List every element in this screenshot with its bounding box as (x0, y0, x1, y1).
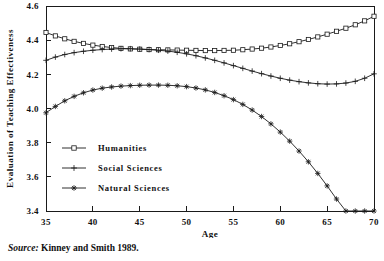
marker-plus (221, 60, 227, 66)
axis-frame-top-right (46, 6, 374, 211)
marker-plus (287, 77, 293, 83)
marker-plus (334, 81, 340, 87)
marker-star (334, 196, 339, 201)
marker-star (240, 102, 245, 107)
marker-plus (212, 58, 218, 64)
x-tick-label: 40 (88, 217, 98, 227)
source-label: Source: (8, 243, 39, 253)
x-tick-label: 60 (275, 217, 285, 227)
marker-star (343, 208, 348, 213)
marker-plus (296, 79, 302, 85)
axis-frame-left-bottom (46, 6, 374, 211)
marker-square (372, 14, 376, 18)
marker-square (222, 48, 226, 52)
marker-star (165, 83, 170, 88)
legend-label: Social Sciences (98, 163, 163, 173)
x-tick-label: 50 (182, 217, 192, 227)
x-tick-label: 70 (369, 217, 379, 227)
marker-square (241, 48, 245, 52)
marker-square (72, 39, 76, 43)
marker-plus (90, 47, 96, 53)
series-line (46, 85, 374, 211)
source-note: Source: Kinney and Smith 1989. (8, 243, 139, 253)
y-axis-title: Evaluation of Teaching Effectiveness (5, 29, 15, 188)
marker-plus (277, 75, 283, 81)
marker-star (118, 83, 123, 88)
marker-plus (371, 71, 377, 77)
marker-plus (81, 48, 87, 54)
marker-square (91, 43, 95, 47)
marker-plus (343, 80, 349, 86)
marker-star (353, 208, 358, 213)
marker-star (109, 84, 114, 89)
marker-star (100, 85, 105, 90)
marker-square (213, 48, 217, 52)
marker-star (184, 84, 189, 89)
marker-star (62, 98, 67, 103)
series-natural-sciences (43, 82, 376, 213)
marker-star (324, 183, 329, 188)
marker-star (306, 159, 311, 164)
marker-plus (362, 75, 368, 81)
marker-square (316, 35, 320, 39)
legend-item-natural-sciences: Natural Sciences (62, 183, 170, 193)
marker-square (269, 45, 273, 49)
y-tick-label: 4.4 (27, 35, 40, 45)
legend-item-social-sciences: Social Sciences (62, 163, 163, 173)
figure-container: 3.43.63.84.04.24.44.63540455055606570 Hu… (0, 0, 384, 261)
marker-star (287, 138, 292, 143)
marker-plus (306, 80, 312, 86)
marker-star (278, 129, 283, 134)
marker-star (71, 185, 77, 191)
marker-star (371, 208, 376, 213)
marker-star (90, 87, 95, 92)
marker-star (203, 87, 208, 92)
marker-star (128, 83, 133, 88)
marker-square (231, 48, 235, 52)
y-tick-label: 3.4 (27, 206, 40, 216)
line-chart: 3.43.63.84.04.24.44.63540455055606570 Hu… (0, 0, 384, 238)
marker-star (221, 93, 226, 98)
marker-star (259, 114, 264, 119)
marker-square (194, 48, 198, 52)
marker-star (296, 148, 301, 153)
y-tick-label: 4.6 (27, 1, 40, 11)
y-tick-label: 3.8 (27, 138, 40, 148)
marker-plus (249, 68, 255, 74)
marker-plus (53, 54, 59, 60)
marker-square (81, 41, 85, 45)
marker-square (250, 47, 254, 51)
marker-square (297, 40, 301, 44)
marker-star (268, 121, 273, 126)
marker-plus (193, 53, 199, 59)
marker-star (71, 94, 76, 99)
marker-square (288, 42, 292, 46)
marker-plus (324, 81, 330, 87)
marker-star (315, 171, 320, 176)
marker-star (81, 90, 86, 95)
marker-plus (62, 52, 68, 58)
marker-square (53, 34, 57, 38)
legend-label: Natural Sciences (98, 183, 170, 193)
marker-plus (268, 73, 274, 79)
marker-square (259, 46, 263, 50)
data-series (43, 14, 377, 214)
marker-plus (43, 58, 49, 64)
marker-star (193, 85, 198, 90)
marker-plus (71, 165, 77, 171)
marker-star (249, 107, 254, 112)
marker-square (306, 37, 310, 41)
series-humanities (44, 14, 376, 53)
y-tick-label: 3.6 (27, 172, 40, 182)
x-tick-label: 35 (41, 217, 51, 227)
source-citation: Kinney and Smith 1989. (41, 243, 139, 253)
x-axis-title: Age (202, 229, 219, 238)
marker-star (212, 90, 217, 95)
marker-star (362, 208, 367, 213)
marker-square (344, 26, 348, 30)
marker-square (44, 30, 48, 34)
x-tick-label: 55 (229, 217, 239, 227)
marker-star (146, 82, 151, 87)
marker-square (353, 23, 357, 27)
series-line (46, 49, 374, 84)
